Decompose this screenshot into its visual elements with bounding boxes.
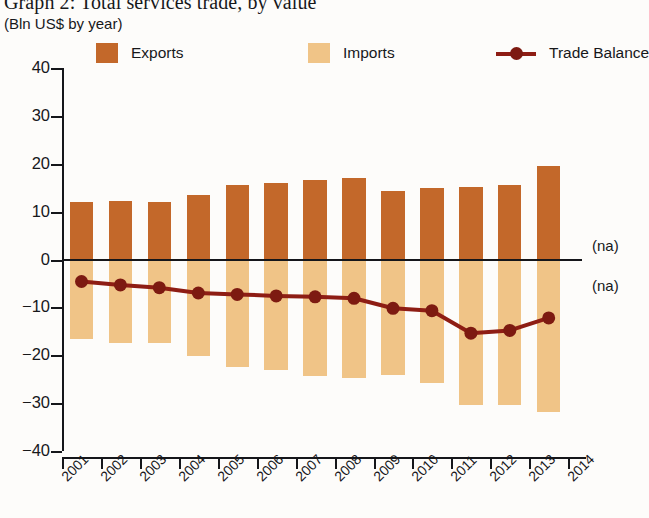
plot-area: 403020100−10−20−30−40 200120022003200420… <box>62 68 582 451</box>
y-axis-tick-label: 10 <box>5 202 50 221</box>
y-axis-tick <box>51 307 62 309</box>
y-axis-tick-label: −20 <box>5 345 50 364</box>
x-axis-tick-label: 2004 <box>175 451 208 484</box>
trade-balance-point <box>542 311 555 324</box>
y-axis-tick <box>51 403 62 405</box>
y-axis-tick <box>51 260 62 262</box>
x-axis-tick-label: 2006 <box>253 451 286 484</box>
x-axis-tick-label: 2001 <box>58 451 91 484</box>
y-axis-tick <box>51 116 62 118</box>
legend-label: Trade Balance <box>549 44 649 62</box>
legend-label: Exports <box>131 44 184 62</box>
y-axis-tick-label: 0 <box>5 250 50 269</box>
trade-balance-point <box>153 281 166 294</box>
trade-balance-line <box>62 68 582 451</box>
y-axis-tick <box>51 451 62 453</box>
trade-balance-point <box>270 289 283 302</box>
y-axis-tick-label: 20 <box>5 154 50 173</box>
legend-item-imports: Imports <box>308 42 395 64</box>
trade-balance-point <box>309 290 322 303</box>
trade-balance-point <box>464 327 477 340</box>
y-axis-tick-label: 30 <box>5 106 50 125</box>
trade-balance-point <box>425 304 438 317</box>
y-axis-tick <box>51 68 62 70</box>
legend-item-exports: Exports <box>96 42 184 64</box>
legend-line-marker-icon <box>496 43 536 63</box>
x-axis-tick-label: 2003 <box>136 451 169 484</box>
chart-title: Graph 2: Total services trade, by value <box>4 0 317 14</box>
trade-balance-point <box>75 275 88 288</box>
x-axis-tick-label: 2013 <box>525 451 558 484</box>
y-axis-tick-label: 40 <box>5 58 50 77</box>
legend-swatch-icon <box>308 43 330 63</box>
y-axis-tick-label: −30 <box>5 393 50 412</box>
trade-balance-point <box>348 292 361 305</box>
legend-swatch-icon <box>96 43 118 63</box>
legend-item-trade-balance: Trade Balance <box>496 42 649 64</box>
y-axis-tick-label: −40 <box>5 441 50 460</box>
trade-balance-polyline <box>82 282 549 334</box>
na-label: (na) <box>592 237 619 254</box>
x-axis-tick-label: 2008 <box>331 451 364 484</box>
y-axis-tick <box>51 164 62 166</box>
x-axis-tick-label: 2012 <box>486 451 519 484</box>
y-axis-tick-label: −10 <box>5 297 50 316</box>
x-axis-tick-label: 2009 <box>370 451 403 484</box>
x-axis-tick-label: 2014 <box>564 451 597 484</box>
y-axis-tick <box>51 355 62 357</box>
x-axis-tick-label: 2002 <box>97 451 130 484</box>
x-axis-tick-label: 2010 <box>408 451 441 484</box>
legend-label: Imports <box>343 44 395 62</box>
chart-subtitle: (Bln US$ by year) <box>4 15 122 32</box>
trade-balance-point <box>192 287 205 300</box>
na-label: (na) <box>592 277 619 294</box>
trade-balance-point <box>231 288 244 301</box>
trade-balance-point <box>114 278 127 291</box>
x-axis-tick-label: 2007 <box>292 451 325 484</box>
x-axis-tick-label: 2005 <box>214 451 247 484</box>
trade-balance-point <box>503 324 516 337</box>
trade-balance-point <box>387 302 400 315</box>
y-axis-tick <box>51 212 62 214</box>
